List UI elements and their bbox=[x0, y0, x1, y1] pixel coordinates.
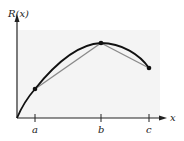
point-c bbox=[147, 66, 152, 71]
y-axis-label: R(x) bbox=[7, 8, 29, 19]
tick-label-a: a bbox=[32, 124, 38, 135]
x-axis-label: x bbox=[170, 112, 176, 123]
tick-label-c: c bbox=[146, 124, 152, 135]
diagram-figure: R(x) x a b c bbox=[0, 0, 184, 141]
x-axis-arrow-icon bbox=[159, 116, 167, 121]
point-a bbox=[33, 87, 38, 92]
shaded-region bbox=[18, 30, 160, 118]
tick-label-b: b bbox=[98, 124, 104, 135]
point-b bbox=[99, 41, 104, 46]
diagram-canvas: R(x) x a b c bbox=[0, 0, 184, 141]
